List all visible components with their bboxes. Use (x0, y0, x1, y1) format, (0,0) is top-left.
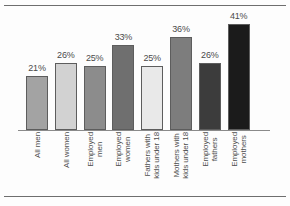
category-label-line: Employed (201, 132, 210, 167)
bar[interactable] (170, 37, 192, 130)
category-label-line: fathers (210, 132, 219, 167)
category-label: Employedwomen (112, 132, 134, 192)
category-label-line: kids under 18 (181, 132, 190, 179)
bar[interactable] (55, 63, 77, 130)
bar-value-label: 25% (78, 53, 112, 63)
category-label-line: mothers (239, 132, 248, 167)
bar-column[interactable]: 26% (199, 63, 221, 130)
bar-value-label: 26% (193, 50, 227, 60)
chart-baseline-axis (18, 130, 270, 131)
category-label-line: Mothers with (172, 132, 181, 179)
category-label-text: Mothers withkids under 18 (172, 132, 190, 179)
bar[interactable] (199, 63, 221, 130)
bar[interactable] (84, 66, 106, 130)
category-label-text: Employedmothers (230, 132, 248, 167)
category-label-text: Employedfathers (201, 132, 219, 167)
category-label-text: Employedwomen (114, 132, 132, 167)
bar-value-label: 25% (135, 53, 169, 63)
category-label: All men (26, 132, 48, 192)
bar-value-label: 33% (106, 32, 140, 42)
category-label: Mothers withkids under 18 (170, 132, 192, 192)
bar-value-label: 21% (20, 63, 54, 73)
chart-page: 21%26%25%33%25%36%26%41% All menAll wome… (0, 0, 290, 206)
bar[interactable] (112, 45, 134, 130)
category-label-line: men (95, 132, 104, 167)
category-axis-labels: All menAll womenEmployedmenEmployedwomen… (0, 132, 290, 194)
category-label-text: Employedmen (86, 132, 104, 167)
category-label: Fathers withkids under 18 (141, 132, 163, 192)
bottom-divider-rule (4, 196, 286, 197)
category-label-text: Fathers withkids under 18 (143, 132, 161, 179)
category-label: All women (55, 132, 77, 192)
category-label-text: All men (33, 132, 42, 158)
bar[interactable] (228, 24, 250, 130)
category-label-line: women (123, 132, 132, 167)
category-label-text: All women (61, 132, 70, 168)
bar-column[interactable]: 41% (228, 24, 250, 130)
category-label-line: All women (61, 132, 70, 168)
bar-chart-plot-area: 21%26%25%33%25%36%26%41% (0, 10, 290, 134)
bar-value-label: 36% (164, 24, 198, 34)
bar-column[interactable]: 36% (170, 37, 192, 130)
bar-column[interactable]: 33% (112, 45, 134, 130)
category-label-line: kids under 18 (152, 132, 161, 179)
category-label-line: Fathers with (143, 132, 152, 179)
bar-value-label: 41% (222, 11, 256, 21)
top-divider-rule (4, 5, 286, 6)
bar[interactable] (26, 76, 48, 130)
category-label: Employedmothers (228, 132, 250, 192)
bar-column[interactable]: 26% (55, 63, 77, 130)
category-label: Employedfathers (199, 132, 221, 192)
bar[interactable] (141, 66, 163, 130)
category-label: Employedmen (84, 132, 106, 192)
category-label-line: Employed (86, 132, 95, 167)
bar-column[interactable]: 25% (141, 66, 163, 130)
category-label-line: All men (33, 132, 42, 158)
category-label-line: Employed (230, 132, 239, 167)
bar-column[interactable]: 21% (26, 76, 48, 130)
bar-column[interactable]: 25% (84, 66, 106, 130)
